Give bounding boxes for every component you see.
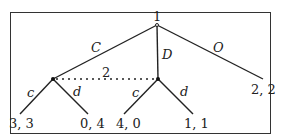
right-action-c-label: c: [132, 86, 139, 99]
edge-left-d: [53, 79, 88, 114]
right-action-d-label: d: [180, 85, 188, 98]
payoff-C-d: 0, 4: [80, 117, 105, 130]
payoff-C-c: 3, 3: [9, 117, 34, 130]
left-action-d-label: d: [73, 85, 81, 98]
player2-node-left: [51, 77, 55, 81]
left-action-c-label: c: [27, 86, 34, 99]
player2-node-right: [156, 77, 160, 81]
action-O-label: O: [213, 41, 224, 54]
edge-D: [157, 25, 158, 79]
payoff-O: 2, 2: [251, 83, 276, 96]
root-player-label: 1: [153, 10, 161, 23]
game-tree-edges: [0, 0, 282, 139]
edge-right-c: [124, 79, 158, 114]
action-D-label: D: [162, 48, 172, 61]
edge-left-c: [20, 79, 53, 114]
action-C-label: C: [91, 41, 101, 54]
payoff-D-d: 1, 1: [184, 117, 209, 130]
info-set-player-label: 2: [102, 66, 110, 79]
edge-O: [157, 25, 263, 79]
payoff-D-c: 4, 0: [116, 117, 141, 130]
